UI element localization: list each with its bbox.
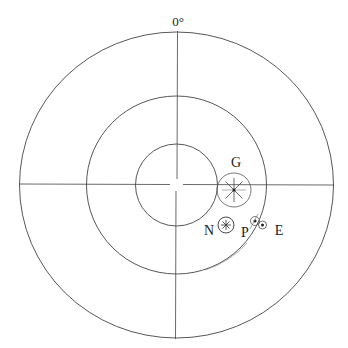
polar-diagram: 0° G N P E xyxy=(0,0,348,348)
marker-p xyxy=(251,217,260,226)
top-label: 0° xyxy=(172,14,184,29)
horizontal-axis-right xyxy=(183,185,334,186)
horizontal-axis-left xyxy=(19,184,170,185)
label-p: P xyxy=(241,225,249,240)
vertical-axis-bottom xyxy=(176,191,177,339)
marker-e xyxy=(259,221,267,229)
marker-n xyxy=(218,217,234,233)
marker-g xyxy=(217,173,251,207)
label-n: N xyxy=(204,223,214,238)
inner-ring xyxy=(136,144,218,226)
asterisk-icon xyxy=(221,220,231,230)
label-e: E xyxy=(275,223,284,238)
label-g: G xyxy=(231,155,241,170)
vertical-axis-top xyxy=(177,31,178,179)
diagram-canvas: 0° G N P E xyxy=(0,0,348,348)
